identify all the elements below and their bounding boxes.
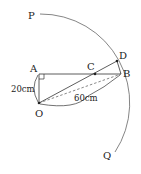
label-p: P <box>28 10 35 21</box>
label-c: C <box>87 61 95 72</box>
right-angle-marker <box>39 74 44 79</box>
label-a: A <box>29 63 38 74</box>
geometry-diagram: P Q A B C D O 20cm 60cm <box>0 0 141 174</box>
point-d-dot <box>116 60 119 63</box>
label-oa-length: 20cm <box>11 84 35 94</box>
label-o: O <box>35 108 43 119</box>
label-q: Q <box>103 150 111 161</box>
label-d: D <box>119 50 127 61</box>
point-c-dot <box>94 73 97 76</box>
label-ob-length: 60cm <box>74 93 98 103</box>
label-b: B <box>123 68 130 79</box>
arc-pq <box>40 14 130 152</box>
point-o-dot <box>38 102 41 105</box>
